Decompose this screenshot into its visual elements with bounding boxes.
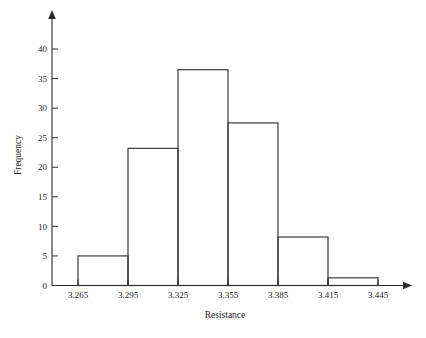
y-tick-label: 35	[38, 74, 48, 84]
y-tick-label: 25	[38, 133, 48, 143]
chart-background	[0, 0, 426, 338]
x-axis-title: Resistance	[205, 310, 246, 320]
x-tick-label: 3.355	[218, 290, 239, 300]
y-axis-title: Frequency	[13, 135, 23, 175]
y-tick-label: 15	[38, 192, 48, 202]
y-tick-label: 0	[43, 281, 48, 291]
x-tick-label: 3.445	[368, 290, 389, 300]
x-tick-label: 3.415	[318, 290, 339, 300]
x-tick-label: 3.265	[68, 290, 89, 300]
x-tick-label: 3.385	[268, 290, 289, 300]
y-tick-label: 40	[38, 44, 48, 54]
y-tick-label: 5	[43, 251, 48, 261]
histogram-figure: 0510152025303540 3.2653.2953.3253.3553.3…	[0, 0, 426, 338]
x-tick-label: 3.295	[118, 290, 139, 300]
histogram-canvas: 0510152025303540 3.2653.2953.3253.3553.3…	[0, 0, 426, 338]
y-tick-label: 20	[38, 162, 48, 172]
y-tick-label: 10	[38, 222, 48, 232]
x-tick-label: 3.325	[168, 290, 189, 300]
y-tick-label: 30	[38, 103, 48, 113]
